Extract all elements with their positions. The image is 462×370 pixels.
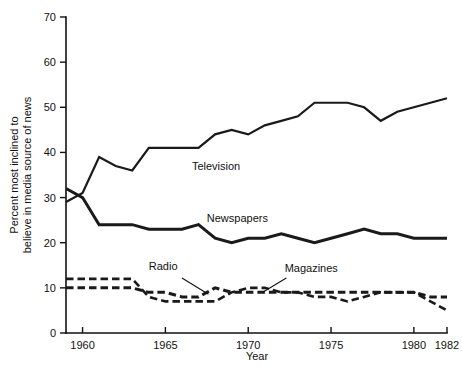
y-tick-label-30: 30	[44, 192, 56, 204]
y-tick-group: 010203040506070	[44, 11, 66, 339]
y-axis-title-line-2: believe in media source of news	[21, 96, 33, 253]
series-line-magazines	[66, 279, 447, 311]
series-label-newspapers: Newspapers	[207, 212, 269, 224]
x-tick-label-1960: 1960	[70, 339, 94, 351]
series-label-magazines: Magazines	[285, 262, 339, 274]
y-tick-label-0: 0	[50, 327, 56, 339]
series-label-group: TelevisionNewspapersMagazinesRadio	[149, 160, 339, 274]
y-tick-label-20: 20	[44, 237, 56, 249]
y-tick-label-60: 60	[44, 56, 56, 68]
y-tick-label-50: 50	[44, 101, 56, 113]
series-label-radio: Radio	[149, 260, 178, 272]
media-credibility-line-chart: 010203040506070 196019651970197519801982…	[0, 0, 462, 370]
x-tick-label-1982: 1982	[435, 339, 459, 351]
y-axis-group: 010203040506070	[44, 11, 66, 339]
radio-leader	[182, 278, 209, 294]
y-tick-label-40: 40	[44, 146, 56, 158]
x-tick-label-1980: 1980	[402, 339, 426, 351]
y-tick-label-70: 70	[44, 11, 56, 23]
x-tick-label-1965: 1965	[153, 339, 177, 351]
x-tick-label-1975: 1975	[319, 339, 343, 351]
series-label-television: Television	[192, 160, 240, 172]
x-tick-group: 196019651970197519801982	[70, 327, 459, 351]
x-axis-group: 196019651970197519801982	[66, 327, 459, 351]
series-line-radio	[66, 288, 447, 297]
chart-canvas: 010203040506070 196019651970197519801982…	[0, 0, 462, 370]
series-line-television	[66, 98, 447, 202]
y-tick-label-10: 10	[44, 282, 56, 294]
x-axis-title: Year	[246, 350, 269, 362]
series-group	[66, 98, 447, 310]
y-axis-title-line-1: Percent most inclined to	[8, 116, 20, 233]
